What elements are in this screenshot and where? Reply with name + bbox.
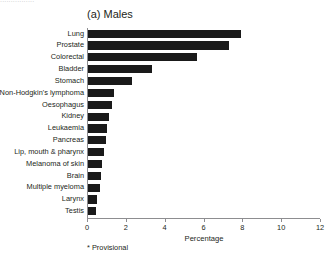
bar (88, 53, 197, 61)
x-axis-tick-label: 6 (201, 223, 205, 232)
bar-category-label: Leukaemia (48, 122, 84, 134)
footnote: * Provisional (87, 243, 128, 252)
bar (88, 89, 114, 97)
bar (88, 148, 104, 156)
bar-row: Larynx (88, 194, 328, 206)
x-axis-tick-label: 2 (124, 223, 128, 232)
bar (88, 172, 101, 180)
chart-title: (a) Males (87, 8, 133, 21)
x-axis-tick-mark (320, 219, 321, 222)
bar-row: Kidney (88, 111, 328, 123)
bar-category-label: Pancreas (53, 134, 84, 146)
bar (88, 65, 152, 73)
bar (88, 113, 109, 121)
bar (88, 30, 241, 38)
bar (88, 124, 107, 132)
bar-category-label: Colorectal (51, 51, 84, 63)
bar-row: Prostate (88, 40, 328, 52)
bar-row: Multiple myeloma (88, 182, 328, 194)
bar-category-label: Stomach (55, 75, 84, 87)
page-bleed-text: ................ (0, 0, 330, 6)
bar-row: Melanoma of skin (88, 158, 328, 170)
bar-category-label: Brain (67, 170, 84, 182)
bar (88, 195, 97, 203)
x-axis-tick-label: 10 (277, 223, 285, 232)
x-axis-tick-label: 4 (163, 223, 167, 232)
x-axis-tick-label: 12 (316, 223, 324, 232)
bar-row: Leukaemia (88, 123, 328, 135)
bar (88, 207, 96, 215)
x-axis-title: Percentage (185, 234, 224, 243)
bar-series: LungProstateColorectalBladderStomachNon-… (88, 28, 328, 218)
plot-area: LungProstateColorectalBladderStomachNon-… (0, 28, 330, 220)
bar-category-label: Lung (68, 28, 84, 40)
x-axis-tick-label: 8 (240, 223, 244, 232)
bar-row: Brain (88, 170, 328, 182)
bar-row: Colorectal (88, 52, 328, 64)
bar-row: Bladder (88, 64, 328, 76)
bar-row: Pancreas (88, 135, 328, 147)
x-axis-tick-mark (87, 219, 88, 222)
x-axis-tick-mark (242, 219, 243, 222)
bar-category-label: Oesophagus (42, 99, 84, 111)
bar-category-label: Larynx (62, 193, 84, 205)
bar-chart-figure: ................ (a) Males LungProstateC… (0, 0, 330, 265)
bleed-text: ................ (0, 0, 34, 3)
bar-row: Oesophagus (88, 99, 328, 111)
bar (88, 41, 229, 49)
bar-row: Testis (88, 206, 328, 218)
bar (88, 77, 132, 85)
bar-category-label: Testis (65, 205, 84, 217)
bar-row: Lung (88, 28, 328, 40)
bar-category-label: Bladder (59, 63, 84, 75)
bar-row: Stomach (88, 75, 328, 87)
x-axis-tick-mark (281, 219, 282, 222)
bar (88, 101, 112, 109)
x-axis-tick-mark (204, 219, 205, 222)
bar-row: Non-Hodgkin's lymphoma (88, 87, 328, 99)
bar-category-label: Non-Hodgkin's lymphoma (0, 87, 84, 99)
bar (88, 160, 102, 168)
bar-category-label: Multiple myeloma (26, 181, 84, 193)
bar-category-label: Prostate (56, 39, 84, 51)
bar-category-label: Kidney (61, 110, 84, 122)
bar-category-label: Lip, mouth & pharynx (14, 146, 84, 158)
x-axis-tick-mark (126, 219, 127, 222)
bar-category-label: Melanoma of skin (26, 158, 84, 170)
bar (88, 184, 100, 192)
x-axis-tick-mark (165, 219, 166, 222)
bar (88, 136, 106, 144)
x-axis-tick-label: 0 (85, 223, 89, 232)
bar-row: Lip, mouth & pharynx (88, 146, 328, 158)
